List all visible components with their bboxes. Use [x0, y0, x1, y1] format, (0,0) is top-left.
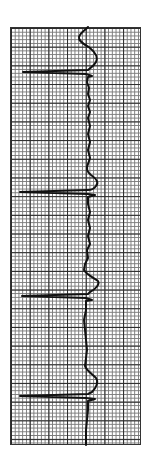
ecg-waveform-path	[20, 27, 99, 445]
ecg-trace	[0, 0, 152, 460]
